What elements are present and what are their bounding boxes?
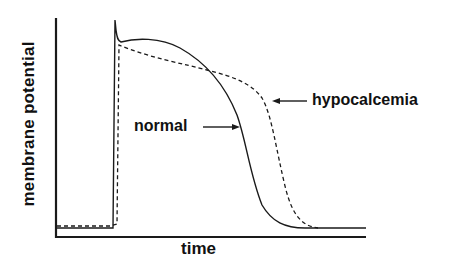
action-potential-diagram: membrane potential time normal hypocalce…: [0, 0, 465, 268]
normal-curve: [57, 20, 366, 228]
normal-annotation: normal: [134, 118, 187, 134]
x-axis-label: time: [181, 240, 216, 257]
hypocalcemia-annotation: hypocalcemia: [312, 92, 418, 108]
hypocalcemia-arrow-icon: [272, 98, 307, 104]
y-axis-label: membrane potential: [20, 41, 37, 206]
plot-area: [0, 0, 465, 268]
normal-arrow-icon: [203, 124, 240, 130]
hypocalcemia-curve: [57, 45, 318, 228]
